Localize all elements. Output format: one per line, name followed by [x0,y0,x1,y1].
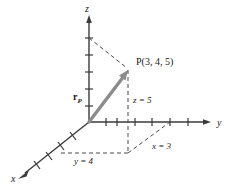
point-p-label: P(3, 4, 5) [136,57,173,67]
position-vector-group [89,70,128,122]
dashed-z-to-point [89,38,127,68]
position-vector-label: rP [73,92,82,105]
y-projection-label: y = 4 [74,157,93,166]
x-axis-arrowhead [18,170,29,179]
x-axis-group [18,122,89,179]
position-vector-shaft [89,76,124,122]
y-axis-arrowhead [203,119,211,125]
vector-subscript: P [77,97,81,105]
z-axis-label: z [85,4,89,14]
x-axis-label: x [11,174,15,184]
y-axis-group [89,118,211,126]
y-axis-label: y [217,118,221,128]
z-axis-group [85,15,93,122]
z-axis-arrowhead [86,15,92,23]
coordinate-axes-svg [0,0,232,189]
x-projection-label: x = 3 [152,142,171,151]
figure-3d-coordinate-diagram: z y x P(3, 4, 5) rP z = 5 y = 4 x = 3 [0,0,232,189]
z-projection-label: z = 5 [133,96,152,105]
